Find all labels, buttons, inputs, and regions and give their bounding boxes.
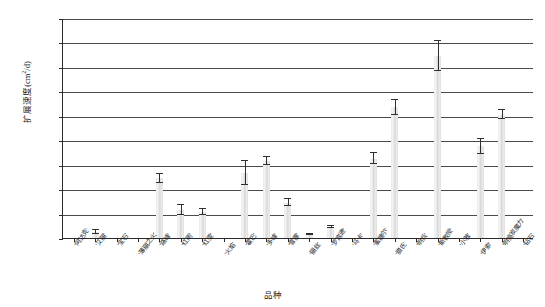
x-axis-tick-label: '火焰'	[222, 240, 238, 257]
gridline	[63, 190, 533, 191]
y-axis-tick-mark	[59, 92, 63, 93]
error-bar-cap-upper	[434, 40, 441, 41]
gridline	[63, 92, 533, 93]
x-axis-tick-label: '伊索'	[478, 240, 494, 257]
error-bar-cap-upper	[370, 152, 377, 153]
gridline	[63, 166, 533, 167]
error-bar-cap-upper	[391, 99, 398, 100]
error-bar-cap-upper	[498, 109, 505, 110]
error-bar-cap-upper	[284, 198, 291, 199]
error-bar-cap-lower	[391, 114, 398, 115]
y-axis-title-base: 扩展速度(cm	[22, 74, 32, 123]
error-bar-cap-lower	[92, 233, 99, 234]
plot-area: 00.100.200.300.400.500.600.700.800.90	[62, 19, 533, 239]
y-axis-tick-mark	[59, 215, 63, 216]
error-bar-cap-lower	[284, 205, 291, 206]
y-axis-title-superscript: 2	[21, 71, 27, 74]
error-bar-cap-upper	[156, 173, 163, 174]
gridline	[63, 68, 533, 69]
bar	[263, 161, 270, 238]
error-bar-cap-lower	[498, 118, 505, 119]
error-bar-cap-upper	[92, 229, 99, 230]
bar	[391, 107, 398, 238]
bar	[434, 56, 441, 238]
error-bar-cap-upper	[199, 208, 206, 209]
error-bar-cap-lower	[370, 163, 377, 164]
x-axis-tick-label: '丽丝'	[307, 240, 323, 257]
bar	[370, 159, 377, 238]
error-bar	[245, 161, 246, 185]
error-bar	[395, 100, 396, 115]
bar	[498, 115, 505, 238]
error-bar-cap-upper	[327, 225, 334, 226]
y-axis-tick-mark	[59, 43, 63, 44]
error-bar-cap-upper	[241, 160, 248, 161]
diffusion-rate-bar-chart: 扩展速度(cm2/d) 00.100.200.300.400.500.600.7…	[0, 0, 545, 307]
error-bar-cap-upper	[477, 138, 484, 139]
y-axis-tick-mark	[59, 141, 63, 142]
error-bar-cap-upper	[177, 204, 184, 205]
y-axis-title: 扩展速度(cm2/d)	[20, 22, 32, 162]
gridline	[63, 43, 533, 44]
error-bar-cap-lower	[156, 182, 163, 183]
y-axis-tick-mark	[59, 117, 63, 118]
x-axis-tick-labels: '阿达克''艾丽''宝石''薄丽之火''路峰''红雨''红雯''火焰''霍巴''…	[62, 241, 533, 291]
error-bar-cap-upper	[263, 156, 270, 157]
error-bar	[438, 41, 439, 70]
gridline	[63, 215, 533, 216]
error-bar-cap-lower	[306, 234, 313, 235]
error-bar-cap-lower	[177, 214, 184, 215]
gridline	[63, 19, 533, 20]
y-axis-tick-mark	[59, 190, 63, 191]
y-axis-tick-mark	[59, 19, 63, 20]
y-axis-title-tail: /d)	[22, 61, 32, 70]
x-axis-tick-label: '腊氏'	[393, 240, 409, 257]
error-bar-cap-lower	[434, 70, 441, 71]
gridline	[63, 117, 533, 118]
error-bar-cap-lower	[241, 184, 248, 185]
error-bar-cap-lower	[477, 153, 484, 154]
bar	[156, 178, 163, 238]
bar	[284, 203, 291, 238]
y-axis-tick-mark	[59, 68, 63, 69]
gridline	[63, 141, 533, 142]
error-bar	[480, 139, 481, 154]
error-bar-cap-lower	[327, 227, 334, 228]
y-axis-tick-mark	[59, 166, 63, 167]
y-axis-tick-mark	[59, 239, 63, 240]
bar	[477, 146, 484, 238]
error-bar-cap-lower	[263, 164, 270, 165]
x-axis-title: 品种	[0, 288, 545, 300]
error-bar-cap-lower	[199, 214, 206, 215]
